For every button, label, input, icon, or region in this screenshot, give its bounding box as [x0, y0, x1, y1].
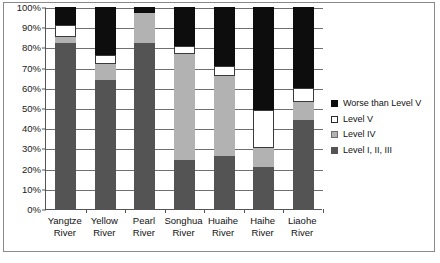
- y-axis-tick-label: 60%: [22, 84, 41, 94]
- y-axis-tick-label: 30%: [22, 145, 41, 155]
- bar-segment: [95, 80, 116, 209]
- x-axis-label-line1: Liaohe: [288, 215, 317, 226]
- bar-segment: [293, 88, 314, 102]
- bar-segment: [95, 55, 116, 63]
- bar-huaihe-river[interactable]: [214, 7, 235, 209]
- bar-segment: [55, 37, 76, 43]
- y-axis-tick-mark: [42, 169, 46, 170]
- x-axis-tick-mark: [323, 209, 324, 213]
- bar-segment: [174, 7, 195, 46]
- stacked-bar-chart: 0%10%20%30%40%50%60%70%80%90%100% Worse …: [0, 0, 440, 263]
- y-axis-tick-mark: [42, 210, 46, 211]
- x-axis-label-line2: River: [273, 227, 331, 239]
- x-axis-tick-mark: [125, 209, 126, 213]
- legend-label: Level IV: [343, 130, 376, 139]
- y-axis-tick-mark: [42, 48, 46, 49]
- bar-segment: [253, 148, 274, 166]
- y-axis-tick-label: 90%: [22, 23, 41, 33]
- bar-segment: [55, 25, 76, 37]
- bar-segment: [174, 160, 195, 209]
- x-axis-category-label: LiaoheRiver: [273, 215, 331, 239]
- legend-swatch-icon: [331, 100, 338, 107]
- x-axis-tick-mark: [86, 209, 87, 213]
- bar-segment: [134, 43, 155, 209]
- y-axis-tick-label: 0%: [27, 205, 41, 215]
- y-axis-tick-mark: [42, 88, 46, 89]
- x-axis-label-line1: Haihe: [250, 215, 275, 226]
- bar-segment: [134, 13, 155, 43]
- legend-item[interactable]: Level I, II, III: [331, 143, 435, 159]
- bar-songhua-river[interactable]: [174, 7, 195, 209]
- bar-liaohe-river[interactable]: [293, 7, 314, 209]
- bar-segment: [214, 76, 235, 157]
- y-axis-tick-mark: [42, 28, 46, 29]
- bar-segment: [293, 102, 314, 120]
- bar-pearl-river[interactable]: [134, 7, 155, 209]
- x-axis-tick-mark: [283, 209, 284, 213]
- legend-item[interactable]: Level V: [331, 112, 435, 128]
- bar-segment: [55, 7, 76, 25]
- chart-legend: Worse than Level VLevel VLevel IVLevel I…: [331, 96, 435, 158]
- y-axis-tick-mark: [42, 109, 46, 110]
- y-axis-tick-mark: [42, 149, 46, 150]
- bar-segment: [253, 110, 274, 148]
- y-axis-tick-label: 40%: [22, 124, 41, 134]
- bar-yellow-river[interactable]: [95, 7, 116, 209]
- bar-segment: [95, 64, 116, 80]
- bar-segment: [174, 54, 195, 159]
- legend-label: Worse than Level V: [343, 99, 421, 108]
- y-axis-tick-mark: [42, 189, 46, 190]
- y-axis-tick-label: 20%: [22, 165, 41, 175]
- bar-segment: [293, 7, 314, 88]
- y-axis-tick-label: 100%: [17, 3, 41, 13]
- y-axis-tick-label: 80%: [22, 44, 41, 54]
- bar-segment: [55, 43, 76, 209]
- y-axis-tick-mark: [42, 129, 46, 130]
- x-axis-label-line1: Pearl: [133, 215, 155, 226]
- x-axis-tick-mark: [244, 209, 245, 213]
- legend-swatch-icon: [331, 116, 338, 123]
- x-axis-tick-mark: [204, 209, 205, 213]
- bar-segment: [95, 7, 116, 55]
- bar-segment: [253, 7, 274, 110]
- y-axis-tick-mark: [42, 8, 46, 9]
- bar-segment: [214, 7, 235, 66]
- bar-segment: [134, 7, 155, 13]
- legend-item[interactable]: Worse than Level V: [331, 96, 435, 112]
- bar-haihe-river[interactable]: [253, 7, 274, 209]
- x-axis-tick-mark: [165, 209, 166, 213]
- legend-label: Level I, II, III: [343, 146, 392, 155]
- y-axis-tick-label: 50%: [22, 104, 41, 114]
- legend-swatch-icon: [331, 131, 338, 138]
- bar-yangtze-river[interactable]: [55, 7, 76, 209]
- legend-swatch-icon: [331, 147, 338, 154]
- y-axis-tick-label: 10%: [22, 185, 41, 195]
- bar-segment: [174, 46, 195, 54]
- y-axis-tick-mark: [42, 68, 46, 69]
- bar-segment: [293, 120, 314, 209]
- bar-segment: [214, 66, 235, 76]
- bar-segment: [253, 167, 274, 209]
- legend-item[interactable]: Level IV: [331, 127, 435, 143]
- bar-segment: [214, 156, 235, 209]
- x-axis-label-line1: Yellow: [91, 215, 118, 226]
- plot-area: 0%10%20%30%40%50%60%70%80%90%100%: [45, 8, 322, 210]
- y-axis-tick-label: 70%: [22, 64, 41, 74]
- legend-label: Level V: [343, 115, 373, 124]
